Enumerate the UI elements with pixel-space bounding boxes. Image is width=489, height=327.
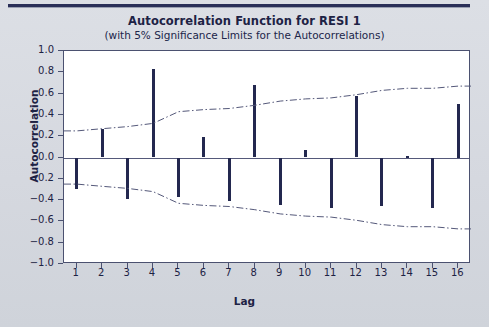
x-axis-tick-label: 10 bbox=[295, 267, 315, 278]
y-axis-tick bbox=[58, 93, 63, 94]
y-axis-tick-label: −0.4 bbox=[14, 193, 54, 204]
y-axis-tick bbox=[58, 178, 63, 179]
chart-page: Autocorrelation Function for RESI 1 (wit… bbox=[0, 0, 489, 327]
x-axis-tick-label: 8 bbox=[244, 267, 264, 278]
significance-limits bbox=[64, 51, 471, 264]
y-axis-tick bbox=[58, 114, 63, 115]
x-axis-tick-label: 4 bbox=[142, 267, 162, 278]
lower-significance-limit-line bbox=[64, 184, 471, 229]
x-axis-tick-label: 7 bbox=[218, 267, 238, 278]
x-axis-tick-label: 12 bbox=[346, 267, 366, 278]
top-rule-shadow bbox=[8, 7, 470, 8]
x-axis-tick-label: 3 bbox=[117, 267, 137, 278]
x-axis-tick-label: 9 bbox=[269, 267, 289, 278]
x-axis-tick-label: 13 bbox=[371, 267, 391, 278]
x-axis-tick-label: 11 bbox=[320, 267, 340, 278]
y-axis-tick-label: −0.2 bbox=[14, 172, 54, 183]
x-axis-tick-label: 15 bbox=[422, 267, 442, 278]
y-axis-tick-label: 1.0 bbox=[14, 44, 54, 55]
y-axis-tick bbox=[58, 71, 63, 72]
x-axis-tick-label: 16 bbox=[447, 267, 467, 278]
upper-significance-limit-line bbox=[64, 86, 471, 131]
y-axis-tick-label: −1.0 bbox=[14, 257, 54, 268]
y-axis-tick-label: 0.6 bbox=[14, 87, 54, 98]
x-axis-tick-label: 1 bbox=[66, 267, 86, 278]
plot-inner bbox=[64, 51, 469, 262]
y-axis-tick bbox=[58, 135, 63, 136]
chart-subtitle: (with 5% Significance Limits for the Aut… bbox=[0, 29, 489, 41]
y-axis-tick bbox=[58, 50, 63, 51]
y-axis-tick bbox=[58, 242, 63, 243]
y-axis-tick bbox=[58, 220, 63, 221]
y-axis-tick-label: −0.6 bbox=[14, 214, 54, 225]
y-axis-tick-label: −0.8 bbox=[14, 236, 54, 247]
y-axis-tick bbox=[58, 199, 63, 200]
y-axis-tick-label: 0.0 bbox=[14, 151, 54, 162]
x-axis-tick-label: 5 bbox=[167, 267, 187, 278]
x-axis-tick-label: 6 bbox=[193, 267, 213, 278]
y-axis-tick bbox=[58, 157, 63, 158]
x-axis-tick-label: 2 bbox=[91, 267, 111, 278]
x-axis-tick-label: 14 bbox=[396, 267, 416, 278]
y-axis-tick-label: 0.8 bbox=[14, 65, 54, 76]
y-axis-tick-label: 0.2 bbox=[14, 129, 54, 140]
plot-area bbox=[63, 50, 470, 263]
chart-title: Autocorrelation Function for RESI 1 bbox=[0, 14, 489, 28]
y-axis-tick bbox=[58, 263, 63, 264]
x-axis-title: Lag bbox=[0, 295, 489, 307]
y-axis-tick-label: 0.4 bbox=[14, 108, 54, 119]
